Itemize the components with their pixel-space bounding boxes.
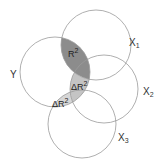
label-x3: X3 <box>118 133 129 144</box>
label-x2: X2 <box>143 87 154 98</box>
label-delta-r2-x3: ΔR2 <box>52 97 68 109</box>
label-delta-r2-x2: ΔR2 <box>71 80 87 92</box>
label-x1: X1 <box>129 38 140 49</box>
label-r2: R2 <box>68 47 78 59</box>
label-y: Y <box>10 70 17 80</box>
